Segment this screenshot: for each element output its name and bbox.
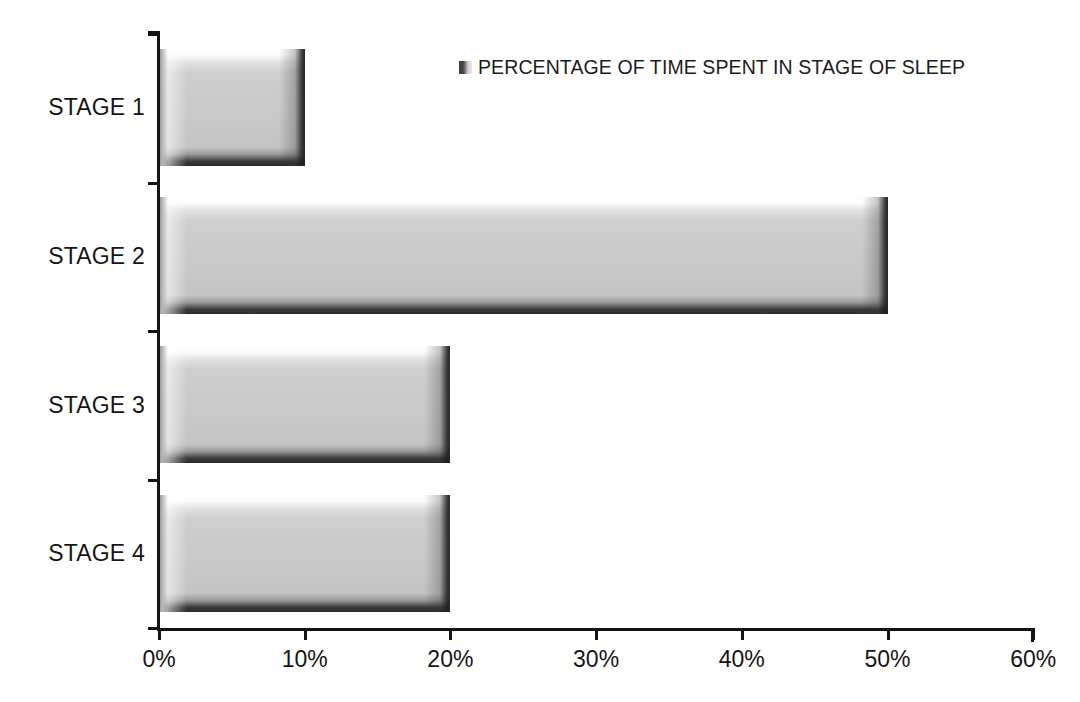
x-axis-tick — [595, 628, 598, 640]
x-axis-label-60pct: 60% — [988, 646, 1078, 673]
x-axis-tick — [449, 628, 452, 640]
bar-bevel-overlay — [159, 197, 888, 314]
x-axis-label-50pct: 50% — [843, 646, 933, 673]
y-axis-label-2: STAGE 2 — [0, 242, 145, 269]
legend-label: PERCENTAGE OF TIME SPENT IN STAGE OF SLE… — [478, 58, 965, 78]
bar-stage-2 — [159, 197, 888, 314]
y-axis-label-1: STAGE 1 — [0, 94, 145, 121]
x-axis-tick — [741, 628, 744, 640]
sleep-stage-bar-chart: PERCENTAGE OF TIME SPENT IN STAGE OF SLE… — [0, 0, 1080, 702]
y-axis-tick — [148, 330, 159, 333]
y-axis-label-3: STAGE 3 — [0, 391, 145, 418]
bar-stage-4 — [159, 495, 450, 612]
bar-stage-1 — [159, 49, 305, 166]
bar-stage-3 — [159, 346, 450, 463]
x-axis-label-20pct: 20% — [405, 646, 495, 673]
y-axis-tick — [148, 182, 159, 185]
x-axis-tick — [158, 628, 161, 640]
x-axis-label-30pct: 30% — [551, 646, 641, 673]
x-axis-label-10pct: 10% — [260, 646, 350, 673]
y-axis-tick — [148, 479, 159, 482]
y-axis-label-4: STAGE 4 — [0, 540, 145, 567]
chart-legend: PERCENTAGE OF TIME SPENT IN STAGE OF SLE… — [459, 58, 965, 78]
legend-color-swatch-icon — [459, 61, 472, 74]
x-axis-label-0pct: 0% — [114, 646, 204, 673]
x-axis-tick — [887, 628, 890, 640]
bar-bevel-overlay — [159, 495, 450, 612]
x-axis-tick — [1032, 628, 1035, 640]
bar-bevel-overlay — [159, 346, 450, 463]
bar-bevel-overlay — [159, 49, 305, 166]
y-axis-top-tick — [148, 31, 159, 34]
x-axis-tick — [304, 628, 307, 640]
x-axis-label-40pct: 40% — [697, 646, 787, 673]
